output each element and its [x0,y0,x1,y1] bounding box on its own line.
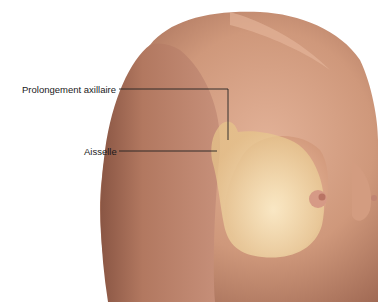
label-axillary-tail: Prolongement axillaire [22,84,116,95]
upper-arm-shape [101,44,220,302]
torso-illustration [0,0,378,302]
anatomy-figure: Prolongement axillaire Aisselle [0,0,378,302]
nipple [319,194,326,201]
label-armpit: Aisselle [84,146,117,157]
